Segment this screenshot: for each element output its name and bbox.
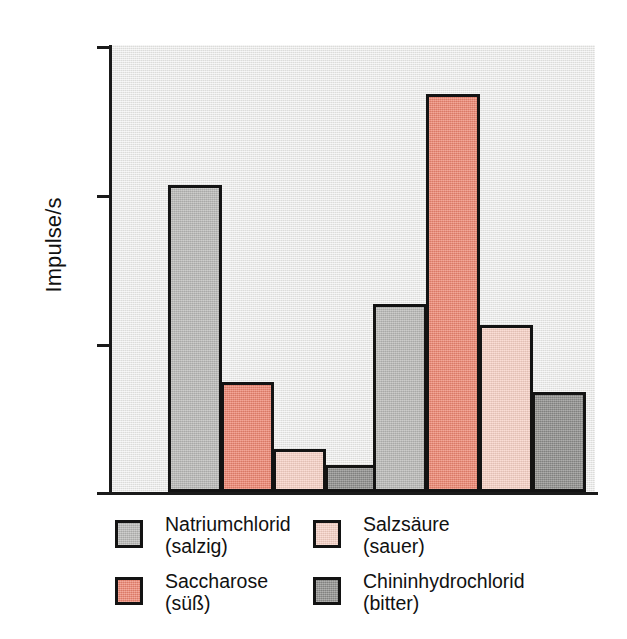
- bar-group2-saccharose: [426, 94, 480, 492]
- bar-texture: [535, 395, 583, 489]
- bar-texture: [171, 188, 219, 489]
- bar-texture: [328, 468, 375, 489]
- legend-label-main: Salzsäure: [363, 513, 450, 535]
- swatch-texture: [118, 523, 140, 545]
- bar-texture: [429, 97, 477, 489]
- y-axis-line: [109, 45, 112, 495]
- swatch-texture: [118, 580, 140, 602]
- legend-item-salzsaeure[interactable]: Salzsäure (sauer): [310, 518, 560, 570]
- y-tick-mark-100: [97, 195, 109, 198]
- legend-label-main: Chininhydrochlorid: [363, 570, 525, 592]
- bar-group2-chininhydrochlorid: [532, 392, 586, 492]
- bar-group1-saccharose: [221, 382, 274, 492]
- y-tick-mark-150: [97, 46, 109, 49]
- bar-group2-natriumchlorid: [373, 304, 427, 492]
- bar-group1-natriumchlorid: [168, 185, 222, 492]
- bar-group1-salzsaeure: [273, 449, 326, 492]
- y-axis-label: Impulse/s: [41, 165, 67, 325]
- x-axis-line: [109, 492, 598, 495]
- bar-texture: [376, 307, 424, 489]
- bar-texture: [276, 452, 323, 489]
- legend-label-main: Natriumchlorid: [165, 513, 291, 535]
- legend-swatch-natriumchlorid: [115, 520, 143, 548]
- legend-label-sub: (sauer): [363, 535, 563, 557]
- y-tick-mark-0: [97, 492, 109, 495]
- legend-column-right: Salzsäure (sauer) Chininhydrochlorid (bi…: [310, 518, 560, 630]
- legend-label-main: Saccharose: [165, 570, 268, 592]
- swatch-texture: [316, 523, 338, 545]
- legend-swatch-saccharose: [115, 577, 143, 605]
- bar-group1-chininhydrochlorid: [325, 465, 378, 492]
- bar-group2-salzsaeure: [479, 325, 533, 492]
- chart-legend: Natriumchlorid (salzig) Saccharose (süß): [112, 518, 612, 630]
- legend-swatch-salzsaeure: [313, 520, 341, 548]
- legend-swatch-chininhydrochlorid: [313, 577, 341, 605]
- legend-label-sub: (bitter): [363, 592, 563, 614]
- bar-chart-figure: Impulse/s 150 100 50 0: [0, 0, 627, 639]
- swatch-texture: [316, 580, 338, 602]
- bar-texture: [224, 385, 271, 489]
- legend-item-chininhydrochlorid[interactable]: Chininhydrochlorid (bitter): [310, 575, 560, 627]
- bar-texture: [482, 328, 530, 489]
- legend-label-salzsaeure: Salzsäure (sauer): [363, 513, 563, 557]
- legend-label-chininhydrochlorid: Chininhydrochlorid (bitter): [363, 570, 563, 614]
- y-tick-mark-50: [97, 344, 109, 347]
